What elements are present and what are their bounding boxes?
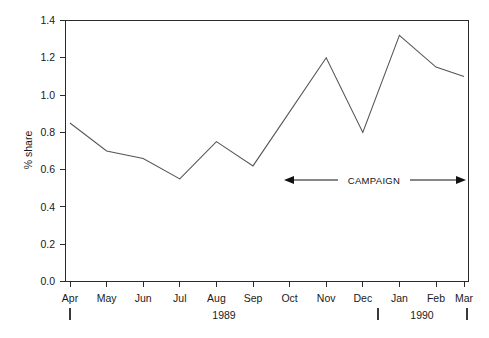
y-tick-label: 0.8: [40, 126, 55, 138]
y-tick-label: 1.0: [40, 89, 55, 101]
y-tick-label: 0.6: [40, 163, 55, 175]
x-tick-label-dec: Dec: [353, 292, 372, 304]
y-tick-label: 0.4: [40, 201, 55, 213]
line-chart: 0.0 0.2 0.4 0.6 0.8 1.0 1.2 1.4 % share: [0, 0, 489, 338]
y-tick-label: 0.0: [40, 275, 55, 287]
x-tick-label-oct: Oct: [281, 292, 297, 304]
x-tick-label-may: May: [97, 292, 118, 304]
x-tick-label-aug: Aug: [207, 292, 226, 304]
x-tick-label-nov: Nov: [317, 292, 336, 304]
chart-background: [0, 0, 489, 338]
x-tick-label-mar: Mar: [455, 292, 474, 304]
x-tick-label-jan: Jan: [391, 292, 408, 304]
y-tick-label: 1.2: [40, 51, 55, 63]
y-axis-title: % share: [22, 131, 34, 170]
x-tick-label-feb: Feb: [427, 292, 445, 304]
x-tick-label-jun: Jun: [135, 292, 152, 304]
year-label-1990: 1990: [410, 309, 434, 321]
campaign-label: CAMPAIGN: [348, 175, 400, 186]
y-tick-label: 0.2: [40, 238, 55, 250]
chart-container: 0.0 0.2 0.4 0.6 0.8 1.0 1.2 1.4 % share: [0, 0, 489, 338]
x-tick-label-jul: Jul: [173, 292, 186, 304]
year-label-1989: 1989: [212, 309, 236, 321]
x-tick-label-apr: Apr: [62, 292, 79, 304]
y-tick-label: 1.4: [40, 14, 55, 26]
x-tick-label-sep: Sep: [244, 292, 263, 304]
